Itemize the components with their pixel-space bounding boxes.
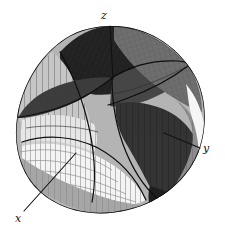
solid-of-intersection-illustration	[0, 0, 225, 240]
solid-body	[0, 0, 225, 240]
axis-label-z: z	[101, 10, 107, 21]
figure-container: z y x	[0, 0, 225, 240]
axis-label-y: y	[203, 143, 209, 154]
axis-label-x: x	[15, 213, 21, 224]
